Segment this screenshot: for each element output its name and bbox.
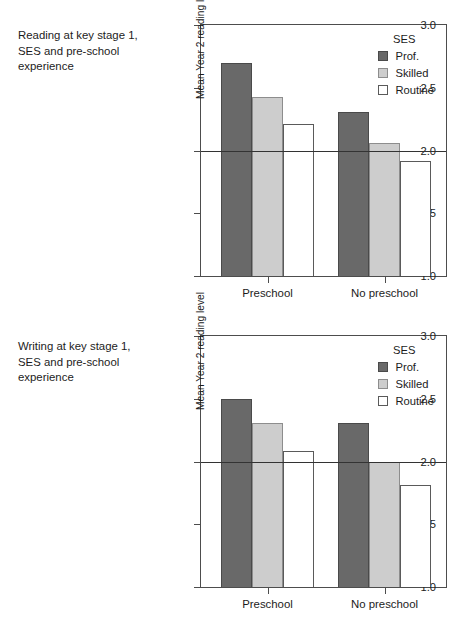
y-axis-tick bbox=[194, 462, 201, 463]
bar-skilled-preschool bbox=[252, 423, 283, 587]
plot-inner-writing: 1.01.52.02.53.0Mean Year 2 reading level… bbox=[201, 336, 446, 587]
bar-routine-no-preschool bbox=[400, 485, 431, 587]
legend: SESProf.SkilledRoutine bbox=[378, 33, 434, 101]
legend-label: Skilled bbox=[395, 378, 428, 390]
legend-item-prof: Prof. bbox=[378, 50, 434, 62]
reference-line bbox=[201, 462, 446, 463]
bar-routine-no-preschool bbox=[400, 161, 431, 276]
legend-label: Prof. bbox=[395, 50, 419, 62]
legend-label: Prof. bbox=[395, 361, 419, 373]
x-axis-tick-label: No preschool bbox=[351, 598, 418, 610]
x-axis-tick-label: No preschool bbox=[351, 287, 418, 299]
legend-label: Routine bbox=[395, 395, 434, 407]
x-axis-tick bbox=[385, 276, 386, 283]
x-axis-tick bbox=[268, 587, 269, 594]
bar-prof-no-preschool bbox=[338, 423, 369, 587]
bar-prof-preschool bbox=[221, 399, 252, 587]
legend-swatch-icon-routine bbox=[378, 85, 388, 95]
x-axis-tick-label: Preschool bbox=[242, 287, 293, 299]
x-axis-tick bbox=[385, 587, 386, 594]
bar-skilled-preschool bbox=[252, 97, 283, 276]
plot-area-writing: 1.01.52.02.53.0Mean Year 2 reading level… bbox=[200, 335, 447, 588]
bar-routine-preschool bbox=[283, 124, 314, 276]
reference-line bbox=[201, 151, 446, 152]
chart-panel-writing: Writing at key stage 1, SES and pre-scho… bbox=[0, 311, 465, 622]
y-axis-label: Mean Year 2 reading level bbox=[195, 0, 206, 120]
legend-swatch-icon-prof bbox=[378, 51, 388, 61]
bar-skilled-no-preschool bbox=[369, 143, 400, 276]
legend-item-skilled: Skilled bbox=[378, 378, 434, 390]
y-axis-tick bbox=[194, 151, 201, 152]
x-axis-tick bbox=[268, 276, 269, 283]
legend-label: Routine bbox=[395, 84, 434, 96]
bar-prof-no-preschool bbox=[338, 112, 369, 276]
legend-swatch-icon-skilled bbox=[378, 68, 388, 78]
legend-title: SES bbox=[378, 33, 434, 45]
y-axis-label: Mean Year 2 reading level bbox=[195, 271, 206, 431]
x-axis-tick-label: Preschool bbox=[242, 598, 293, 610]
legend-item-prof: Prof. bbox=[378, 361, 434, 373]
y-axis-tick-label: 3.0 bbox=[420, 330, 436, 342]
legend-swatch-icon-prof bbox=[378, 362, 388, 372]
y-axis-tick-label: 3.0 bbox=[420, 19, 436, 31]
plot-inner-reading: 1.01.52.02.53.0Mean Year 2 reading level… bbox=[201, 25, 446, 276]
y-axis-tick bbox=[194, 587, 201, 588]
legend: SESProf.SkilledRoutine bbox=[378, 344, 434, 412]
legend-swatch-icon-routine bbox=[378, 396, 388, 406]
legend-swatch-icon-skilled bbox=[378, 379, 388, 389]
legend-title: SES bbox=[378, 344, 434, 356]
panel-caption-reading: Reading at key stage 1, SES and pre-scho… bbox=[18, 28, 168, 75]
plot-area-reading: 1.01.52.02.53.0Mean Year 2 reading level… bbox=[200, 24, 447, 277]
y-axis-tick bbox=[194, 213, 201, 214]
legend-item-routine: Routine bbox=[378, 84, 434, 96]
chart-panel-reading: Reading at key stage 1, SES and pre-scho… bbox=[0, 0, 465, 311]
y-axis-tick bbox=[194, 524, 201, 525]
legend-label: Skilled bbox=[395, 67, 428, 79]
legend-item-skilled: Skilled bbox=[378, 67, 434, 79]
legend-item-routine: Routine bbox=[378, 395, 434, 407]
bar-routine-preschool bbox=[283, 451, 314, 587]
bar-skilled-no-preschool bbox=[369, 462, 400, 588]
bar-prof-preschool bbox=[221, 63, 252, 276]
panel-caption-writing: Writing at key stage 1, SES and pre-scho… bbox=[18, 339, 168, 386]
